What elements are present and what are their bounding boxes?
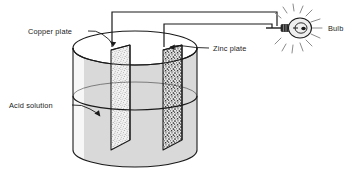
copper-lead-wire [112, 12, 277, 47]
copper-plate-label: Copper plate [28, 27, 72, 36]
zinc-plate-body [163, 45, 182, 150]
copper-electrode-plate [111, 45, 130, 150]
zinc-plate-label: Zinc plate [213, 44, 247, 53]
copper-plate-body [111, 45, 130, 150]
cell-diagram-canvas: Copper plate Zinc plate Acid solution Bu… [0, 0, 357, 185]
bulb-filament-tip [301, 27, 305, 31]
circuit-wiring [112, 12, 283, 47]
voltaic-cell-figure: Copper plate Zinc plate Acid solution Bu… [0, 0, 357, 185]
copper-leader-arrowhead [110, 42, 116, 47]
bulb-glass-envelope [289, 18, 312, 38]
incandescent-light-bulb [275, 4, 322, 53]
bulb-label: Bulb [328, 24, 343, 33]
acid-solution-label: Acid solution [9, 101, 53, 110]
zinc-electrode-plate [163, 45, 182, 150]
